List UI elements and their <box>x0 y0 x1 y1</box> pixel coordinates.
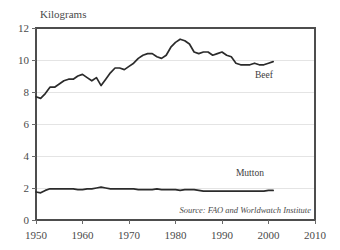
x-tick-label-1960: 1960 <box>72 229 95 241</box>
y-tick-labels-group: 024681012 <box>18 22 30 226</box>
x-tick-labels-group: 1950196019701980199020002010 <box>25 229 327 241</box>
series-label-mutton: Mutton <box>236 168 264 178</box>
x-tick-label-1990: 1990 <box>211 229 234 241</box>
x-tick-label-1980: 1980 <box>165 229 188 241</box>
series-label-beef: Beef <box>255 70 274 80</box>
series-line-beef <box>36 39 273 98</box>
x-tick-label-1970: 1970 <box>118 229 141 241</box>
x-tick-label-2010: 2010 <box>304 229 327 241</box>
y-tick-label-6: 6 <box>24 118 30 130</box>
y-axis-title: Kilograms <box>40 8 86 20</box>
y-tick-label-12: 12 <box>18 22 29 34</box>
y-tick-label-8: 8 <box>24 86 30 98</box>
y-tick-label-10: 10 <box>18 54 30 66</box>
x-tick-label-2000: 2000 <box>258 229 281 241</box>
line-chart-figure: 024681012 1950196019701980199020002010 B… <box>0 0 340 250</box>
y-tick-label-4: 4 <box>24 150 30 162</box>
chart-canvas: 024681012 1950196019701980199020002010 B… <box>0 0 340 250</box>
gridlines-group <box>36 60 315 188</box>
source-annotation: Source: FAO and Worldwatch Institute <box>180 205 312 215</box>
x-tick-label-1950: 1950 <box>25 229 48 241</box>
y-tick-label-0: 0 <box>24 214 30 226</box>
y-tick-label-2: 2 <box>24 182 30 194</box>
